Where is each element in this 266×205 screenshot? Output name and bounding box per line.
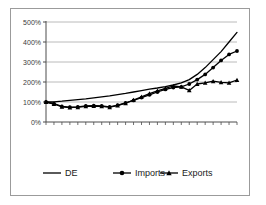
legend-item-exports[interactable]: Exports — [160, 168, 213, 178]
series-exports — [44, 78, 240, 110]
legend-label: DE — [65, 168, 78, 178]
line-chart: 0%100%200%300%400%500% DEImportsExports — [0, 0, 266, 205]
y-axis-tick-label: 200% — [23, 79, 41, 86]
data-point — [219, 59, 223, 63]
y-axis-tick-label: 500% — [23, 19, 41, 26]
data-series-layer — [44, 32, 240, 109]
data-point — [235, 49, 239, 53]
data-point — [187, 82, 191, 86]
data-point — [211, 66, 215, 70]
chart-figure: 0%100%200%300%400%500% DEImportsExports — [0, 0, 266, 205]
legend-item-de[interactable]: DE — [43, 168, 78, 178]
chart-legend: DEImportsExports — [43, 168, 213, 178]
y-axis-tick-label: 100% — [23, 99, 41, 106]
series-line — [46, 32, 237, 102]
y-axis-tick-label: 300% — [23, 59, 41, 66]
series-de — [46, 32, 237, 102]
data-point — [195, 78, 199, 82]
data-point — [227, 53, 231, 57]
data-point — [235, 78, 240, 82]
legend-marker-circle — [120, 171, 125, 176]
legend-label: Exports — [182, 168, 213, 178]
y-axis-tick-label: 400% — [23, 39, 41, 46]
data-point — [203, 73, 207, 77]
legend-item-imports[interactable]: Imports — [113, 168, 166, 178]
y-axis-tick-label: 0% — [31, 119, 41, 126]
y-axis-labels: 0%100%200%300%400%500% — [23, 19, 41, 126]
series-line — [46, 80, 237, 108]
